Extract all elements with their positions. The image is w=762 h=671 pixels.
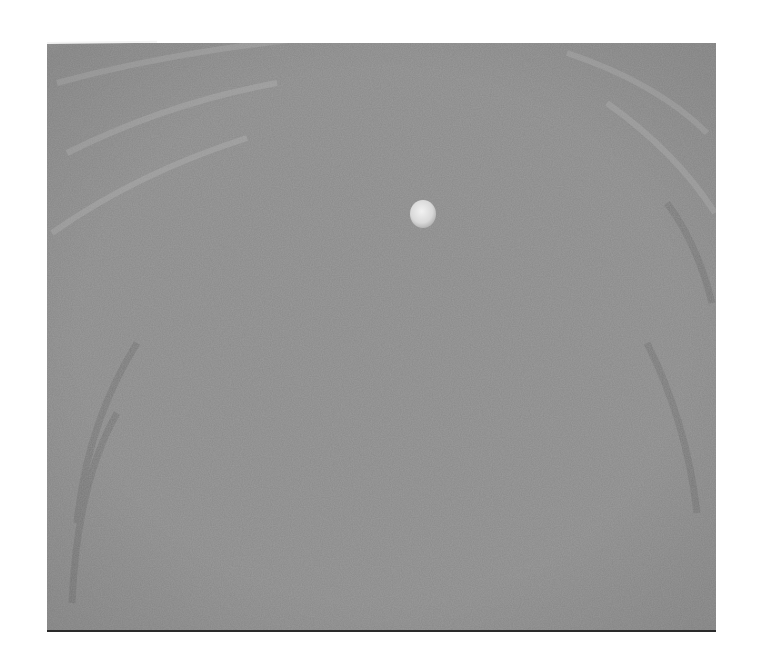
- micrograph-image: [47, 43, 716, 632]
- micrograph-texture: [47, 43, 716, 630]
- bright-particle: [410, 200, 436, 228]
